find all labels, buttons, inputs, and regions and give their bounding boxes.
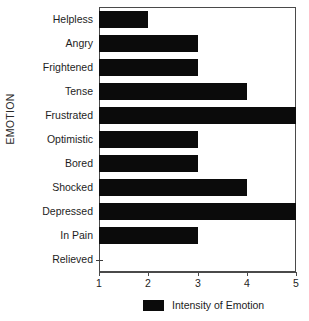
x-tick-label-3: 3 — [188, 277, 208, 289]
y-axis-label-in-pain: In Pain — [0, 227, 93, 244]
bar-chart: EMOTION HelplessAngryFrightenedTenseFrus… — [0, 0, 309, 321]
y-axis-label-helpless: Helpless — [0, 11, 93, 28]
y-axis-label-tense: Tense — [0, 83, 93, 100]
bars-layer — [99, 7, 296, 272]
x-tick-label-4: 4 — [237, 277, 257, 289]
y-axis-label-optimistic: Optimistic — [0, 131, 93, 148]
bar-tense — [99, 83, 247, 100]
y-axis-label-bored: Bored — [0, 155, 93, 172]
bar-optimistic — [99, 131, 198, 148]
x-tick-1 — [99, 272, 100, 276]
bar-helpless — [99, 11, 148, 28]
legend-label-intensity-of-emotion: Intensity of Emotion — [172, 299, 264, 311]
bar-frustrated — [99, 107, 296, 124]
y-axis-label-frustrated: Frustrated — [0, 107, 93, 124]
y-axis-label-shocked: Shocked — [0, 179, 93, 196]
bar-angry — [99, 35, 198, 52]
x-tick-5 — [296, 272, 297, 276]
y-axis-label-depressed: Depressed — [0, 203, 93, 220]
bar-bored — [99, 155, 198, 172]
bar-frightened — [99, 59, 198, 76]
legend-swatch-intensity-of-emotion — [143, 300, 164, 311]
bar-depressed — [99, 203, 296, 220]
legend: Intensity of Emotion — [143, 299, 264, 311]
bar-shocked — [99, 179, 247, 196]
y-axis-label-relieved: Relieved — [0, 251, 93, 268]
x-tick-label-1: 1 — [89, 277, 109, 289]
x-tick-3 — [198, 272, 199, 276]
y-axis-label-angry: Angry — [0, 35, 93, 52]
x-tick-4 — [247, 272, 248, 276]
x-tick-label-5: 5 — [286, 277, 306, 289]
y-axis-label-frightened: Frightened — [0, 59, 93, 76]
bar-in-pain — [99, 227, 198, 244]
x-tick-label-2: 2 — [138, 277, 158, 289]
x-tick-2 — [148, 272, 149, 276]
bar-nub-relieved — [96, 260, 103, 261]
y-axis-tick-labels: HelplessAngryFrightenedTenseFrustratedOp… — [0, 7, 93, 272]
